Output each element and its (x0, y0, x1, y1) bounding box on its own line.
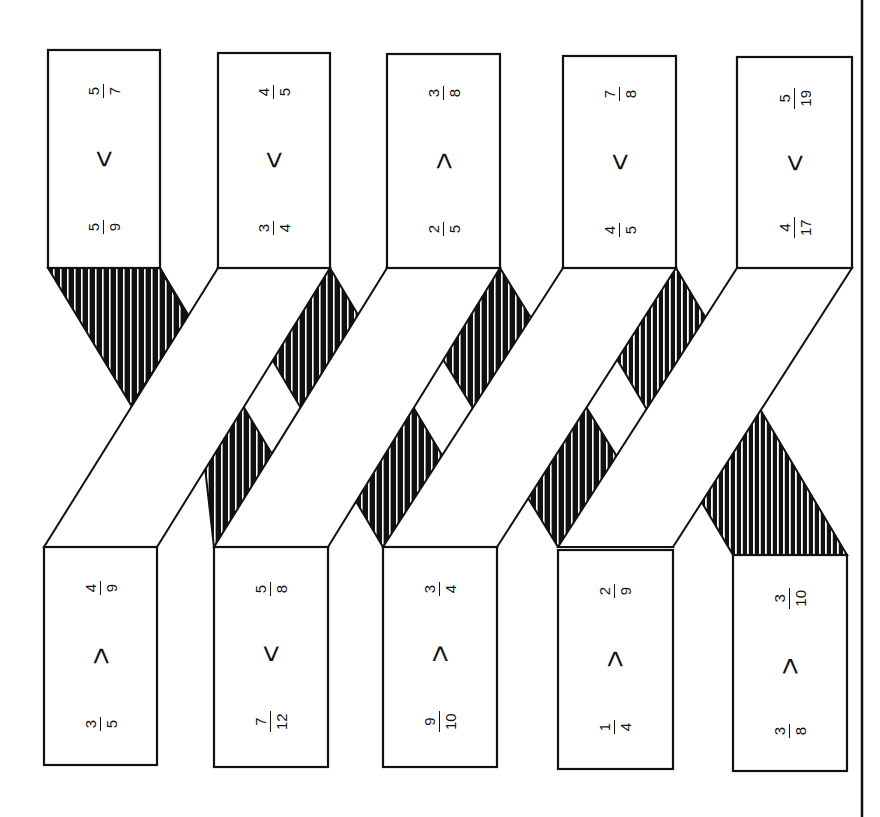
fraction-left: 25 (426, 222, 462, 236)
top-card-3-text: 25 > 38 (396, 36, 492, 286)
comparison-operator: > (425, 645, 455, 663)
comparison-operator: < (89, 150, 119, 168)
fraction-right: 57 (86, 84, 122, 98)
fraction-right: 34 (422, 582, 458, 596)
fraction-right: 519 (777, 88, 813, 109)
fraction-left: 35 (83, 717, 119, 731)
bottom-card-3-text: 910 > 34 (392, 532, 488, 782)
diagram-stage: 59 < 57 34 < 45 25 > 38 45 < 78 417 < 51… (0, 0, 880, 817)
comparison-operator: > (86, 647, 116, 665)
fraction-right: 38 (426, 86, 462, 100)
bottom-card-5-text: 38 > 310 (742, 538, 838, 788)
top-card-5-text: 417 < 519 (747, 38, 843, 288)
fraction-right: 45 (256, 85, 292, 99)
fraction-left: 910 (422, 711, 458, 732)
bottom-card-1-text: 35 > 49 (53, 531, 149, 781)
fraction-right: 78 (602, 87, 638, 101)
bottom-card-2-text: 712 < 58 (223, 532, 319, 782)
fraction-left: 45 (602, 223, 638, 237)
fraction-left: 14 (597, 720, 633, 734)
top-card-1-text: 59 < 57 (56, 34, 152, 284)
bottom-card-4-text: 14 > 29 (567, 534, 663, 784)
fraction-left: 417 (777, 217, 813, 238)
comparison-operator: < (259, 151, 289, 169)
fraction-left: 34 (256, 221, 292, 235)
top-card-4-text: 45 < 78 (572, 37, 668, 287)
comparison-operator: < (256, 645, 286, 663)
fraction-right: 29 (597, 584, 633, 598)
fraction-right: 49 (83, 581, 119, 595)
fraction-left: 712 (253, 711, 289, 732)
comparison-operator: > (429, 152, 459, 170)
comparison-operator: > (600, 650, 630, 668)
comparison-operator: < (605, 153, 635, 171)
comparison-operator: < (780, 154, 810, 172)
comparison-operator: > (775, 658, 805, 676)
top-card-2-text: 34 < 45 (226, 35, 322, 285)
fraction-right: 310 (772, 588, 808, 609)
fraction-left: 38 (772, 724, 808, 738)
fraction-left: 59 (86, 220, 122, 234)
fraction-right: 58 (253, 582, 289, 596)
